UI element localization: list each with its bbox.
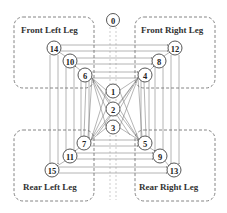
node-14: 14 [47,41,61,55]
svg-text:6: 6 [83,71,87,81]
node-2: 2 [106,102,120,116]
leg-label-front-left: Front Left Leg [21,25,78,35]
node-8: 8 [152,54,166,68]
node-3: 3 [106,120,120,134]
node-4: 4 [138,68,152,82]
svg-text:5: 5 [143,139,147,149]
svg-text:11: 11 [66,152,74,162]
svg-text:1: 1 [111,87,115,97]
leg-label-rear-right: Rear Right Leg [139,182,199,192]
svg-text:9: 9 [158,152,162,162]
node-12: 12 [168,41,182,55]
svg-text:8: 8 [157,57,161,67]
node-15: 15 [45,163,59,177]
svg-text:10: 10 [66,57,75,67]
svg-text:12: 12 [171,44,180,54]
node-10: 10 [63,54,77,68]
svg-text:3: 3 [111,123,115,133]
svg-text:15: 15 [48,166,57,176]
node-1: 1 [106,84,120,98]
node-0: 0 [107,14,120,27]
svg-text:2: 2 [111,105,115,115]
node-11: 11 [63,149,77,163]
node-5: 5 [138,136,152,150]
leg-label-front-right: Front Right Leg [141,25,204,35]
node-13: 13 [167,163,181,177]
svg-text:13: 13 [170,166,179,176]
node-6: 6 [78,68,92,82]
node-9: 9 [153,149,167,163]
svg-text:0: 0 [111,16,115,26]
svg-text:14: 14 [50,44,59,54]
skeleton-graph-diagram: Front Left Leg Front Right Leg Rear Left… [0,0,227,213]
leg-label-rear-left: Rear Left Leg [23,182,77,192]
node-7: 7 [77,136,91,150]
